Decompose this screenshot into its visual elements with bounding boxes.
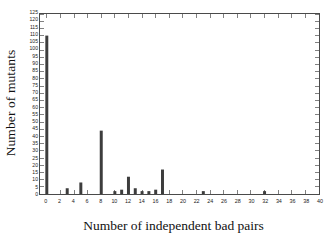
x-tick-label: 34 [276,198,282,204]
x-tick-label: 28 [235,198,241,204]
y-tick-label: 5 [35,185,38,190]
y-tick-label: 35 [32,141,38,146]
y-tick-label: 0 [35,192,38,197]
x-tick-label: 6 [85,198,88,204]
y-tick-label: 50 [32,120,38,125]
y-tick-label: 30 [32,149,38,154]
bar [66,188,69,194]
x-tick-label: 12 [125,198,131,204]
y-tick-label: 85 [32,69,38,74]
x-tick-label: 40 [317,198,323,204]
y-tick-label: 125 [30,10,39,15]
bar [120,190,123,194]
bar [79,182,82,194]
y-tick-label: 10 [32,178,38,183]
plot-area [39,13,320,195]
x-axis-title: Number of independent bad pairs [22,218,325,234]
y-axis-title-text: Number of mutants [3,49,19,156]
y-tick-label: 95 [32,54,38,59]
y-tick-label: 55 [32,112,38,117]
y-tick-label: 60 [32,105,38,110]
x-tick-label: 36 [290,198,296,204]
x-tick-label: 10 [111,198,117,204]
bar [134,188,137,194]
y-tick-label: 115 [30,25,38,30]
axis-tickmarks [40,14,319,194]
bar [127,177,130,194]
y-tick-label: 105 [30,40,39,45]
bar [202,191,205,194]
bar [100,131,103,194]
x-tick-label: 18 [166,198,172,204]
y-tick-label: 20 [32,163,38,168]
y-tick-label: 75 [32,83,38,88]
bar [45,36,48,194]
x-tick-label: 14 [139,198,145,204]
x-tick-label: 16 [153,198,159,204]
x-tick-label: 2 [58,198,61,204]
x-tick-label: 22 [194,198,200,204]
y-axis-tick-labels: 0510152025303540455055606570758085909510… [20,13,38,195]
y-tick-label: 40 [32,134,38,139]
y-tick-label: 15 [32,171,38,176]
x-tick-label: 0 [44,198,47,204]
x-tick-label: 24 [207,198,213,204]
bar [147,191,150,194]
y-axis-title: Number of mutants [0,0,22,205]
x-tick-label: 26 [221,198,227,204]
y-tick-label: 70 [32,91,38,96]
x-tick-label: 32 [262,198,268,204]
y-tick-label: 110 [30,32,38,37]
y-tick-label: 120 [30,18,39,23]
plot-svg [40,14,319,194]
bar [154,190,157,194]
bar [141,191,144,194]
y-tick-label: 25 [32,156,38,161]
y-tick-label: 90 [32,61,38,66]
bar [161,170,164,194]
bar-series [45,36,266,194]
bar [113,191,116,194]
x-tick-label: 30 [248,198,254,204]
x-tick-label: 4 [72,198,75,204]
y-tick-label: 100 [30,47,39,52]
x-tick-label: 20 [180,198,186,204]
x-axis-tick-labels: 0246810121416182022242628303234363840 [39,198,320,210]
y-tick-label: 65 [32,98,38,103]
x-tick-label: 8 [99,198,102,204]
y-tick-label: 80 [32,76,38,81]
histogram-figure: Number of mutants 0510152025303540455055… [0,0,335,243]
y-tick-label: 45 [32,127,38,132]
x-tick-label: 38 [303,198,309,204]
bar [263,191,266,194]
